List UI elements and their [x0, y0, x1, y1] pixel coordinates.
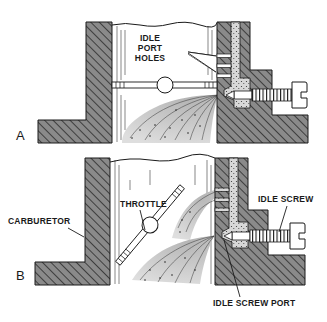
- panel-b: THROTTLE CARBURETOR IDLE SCREW IDLE SCRE…: [8, 154, 314, 308]
- left-wall-a: [38, 22, 112, 143]
- fuel-spray-b-lower: [132, 236, 214, 284]
- fuel-spray-b-upper: [172, 190, 215, 240]
- carburetor-diagram: IDLE PORT HOLES A: [0, 0, 327, 322]
- panel-label-b: B: [16, 268, 25, 283]
- label-holes: HOLES: [135, 53, 165, 63]
- label-idle-screw-port: IDLE SCREW PORT: [213, 298, 296, 308]
- right-wall-b: [215, 158, 305, 285]
- idle-port-holes-b: [215, 188, 229, 212]
- panel-label-a: A: [16, 128, 25, 143]
- bore-top-edge-a: [112, 22, 217, 27]
- label-carburetor: CARBURETOR: [8, 216, 70, 226]
- idle-port-holes-a: [217, 54, 231, 78]
- label-idle-port-holes: IDLE PORT HOLES: [135, 33, 216, 72]
- label-idle: IDLE: [140, 33, 160, 43]
- label-port: PORT: [138, 43, 163, 53]
- throttle-shaft-a: [157, 77, 173, 93]
- fuel-spray-a: [122, 95, 218, 143]
- leader-carburetor: [68, 228, 84, 237]
- leader-idle-screw: [279, 206, 287, 232]
- label-idle-screw: IDLE SCREW: [258, 194, 314, 204]
- throttle-plate-a: [112, 77, 217, 93]
- bore-top-edge-b: [110, 154, 215, 162]
- label-throttle: THROTTLE: [120, 199, 167, 209]
- panel-a: IDLE PORT HOLES A: [16, 22, 308, 143]
